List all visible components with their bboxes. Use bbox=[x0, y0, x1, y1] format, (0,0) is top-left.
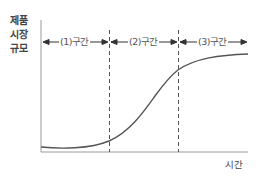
segment-label-3: (3)구간 bbox=[197, 36, 228, 47]
y-axis-label-line1: 제품 bbox=[10, 14, 27, 28]
y-axis-label-line2: 시장 bbox=[10, 28, 27, 42]
segment-label-1: (1)구간 bbox=[59, 36, 90, 47]
y-axis-label-line3: 규모 bbox=[10, 42, 27, 56]
growth-curve bbox=[41, 54, 248, 148]
chart-canvas bbox=[0, 0, 263, 179]
x-axis-label: 시간 bbox=[225, 157, 242, 171]
segment-label-2: (2)구간 bbox=[128, 36, 159, 47]
